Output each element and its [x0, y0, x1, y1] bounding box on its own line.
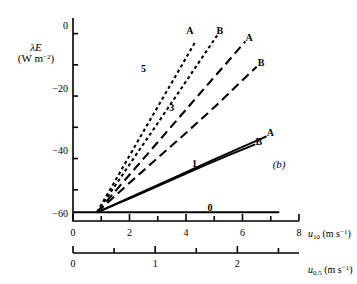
x-tick-label-2: 4: [174, 228, 198, 238]
end-label-5B: B: [216, 26, 223, 36]
curve-group-label-3: 3: [169, 103, 174, 113]
end-label-3A: A: [246, 33, 253, 43]
curve-group: [73, 35, 279, 212]
x-tick-label-3: 6: [231, 228, 255, 238]
x2-tick-label-0: 0: [61, 259, 85, 269]
curve-5A: [97, 41, 196, 212]
end-label-3B: B: [258, 58, 265, 68]
curve-group-label-5: 5: [141, 64, 146, 74]
x-tick-label-1: 2: [118, 228, 142, 238]
end-label-5A: A: [186, 26, 193, 36]
x2-tick-label-1: 1: [143, 259, 167, 269]
y-axis-unit: (W m−2): [18, 52, 54, 64]
x-axis-primary-name: u10 (m s−1): [308, 229, 351, 241]
y-tick-label-1: −40: [0, 146, 68, 156]
y-tick-label-3: 0: [0, 21, 68, 31]
curve-group-label-1: 1: [192, 159, 197, 169]
curve-3B: [97, 67, 257, 213]
end-label-1A: A: [267, 128, 274, 138]
curve-group-label-0: 0: [207, 203, 212, 213]
x-tick-label-0: 0: [61, 228, 85, 238]
curve-3A: [97, 41, 245, 212]
panel-label: (b): [273, 159, 286, 170]
x2-tick-label-2: 2: [225, 259, 249, 269]
y-axis-label: λE (W m−2): [12, 42, 60, 64]
figure-caption-cropped: [6, 276, 306, 284]
end-label-1B: B: [255, 137, 262, 147]
y-tick-label-0: −60: [0, 209, 68, 219]
y-tick-label-2: −20: [0, 84, 68, 94]
axis-ticks: [73, 34, 299, 253]
x-axis-secondary-name: u0.5 (m s−1): [308, 265, 353, 277]
